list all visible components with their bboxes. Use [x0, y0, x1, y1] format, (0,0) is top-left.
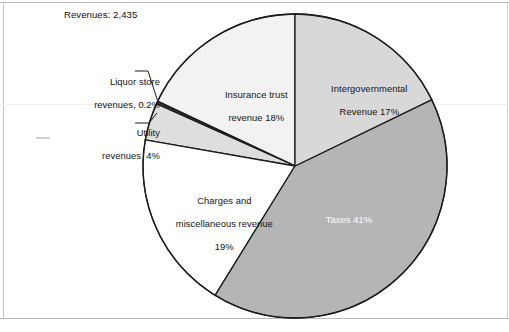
slice-label-intergovernmental-line2: Revenue 17% — [340, 106, 399, 117]
slice-label-charges-misc-line2: miscellaneous revenue — [176, 218, 273, 229]
pie-chart-figure: Revenues: 2,435 Insurance trust revenue … — [0, 0, 509, 332]
slice-label-utility-revenues-line2: revenues 4% — [102, 150, 160, 161]
slice-label-intergovernmental: Intergovernmental Revenue 17% — [303, 71, 425, 129]
slice-label-liquor-store-line1: Liquor store — [110, 76, 160, 87]
slice-label-intergovernmental-line1: Intergovernmental — [331, 83, 407, 94]
slice-label-charges-misc-line1: Charges and — [197, 195, 251, 206]
slice-label-charges-misc-line3: 19% — [215, 241, 234, 252]
slice-label-liquor-store-line2: revenues, 0.2% — [94, 99, 160, 110]
chart-title: Revenues: 2,435 — [64, 9, 137, 21]
slice-label-taxes: Taxes 41% — [306, 214, 392, 226]
slice-label-charges-misc: Charges and miscellaneous revenue 19% — [156, 183, 282, 264]
slice-label-insurance-trust-line1: Insurance trust — [225, 89, 288, 100]
slice-label-insurance-trust: Insurance trust revenue 18% — [196, 77, 306, 135]
slice-label-utility-revenues-line1: Utility — [137, 127, 160, 138]
slice-label-insurance-trust-line2: revenue 18% — [228, 112, 284, 123]
slice-label-utility-revenues: Utility revenues 4% — [56, 115, 160, 173]
slice-label-liquor-store: Liquor store revenues, 0.2% — [52, 64, 160, 122]
